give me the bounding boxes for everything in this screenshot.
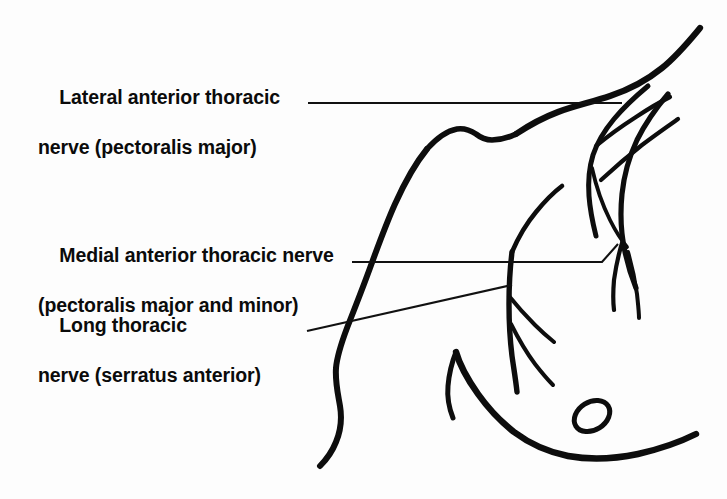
long-thoracic-nerve — [509, 252, 517, 392]
leader-line-long-thoracic — [307, 285, 512, 331]
leader-line-medial — [352, 244, 618, 262]
axillary-fold — [448, 352, 456, 418]
label-long-line1: Long thoracic — [59, 314, 187, 336]
medial-pectoral-fork-left — [613, 240, 623, 310]
breast-contour — [456, 352, 696, 458]
shoulder-arm-contour — [516, 28, 700, 134]
label-long-thoracic-nerve: Long thoracic nerve (serratus anterior) — [38, 288, 261, 438]
label-medial-line1: Medial anterior thoracic nerve — [59, 244, 333, 266]
label-long-line2: nerve (serratus anterior) — [38, 363, 261, 388]
lateral-pectoral-nerve — [589, 86, 648, 236]
nipple-areola — [568, 394, 615, 438]
label-lateral-line2: nerve (pectoralis major) — [38, 135, 280, 160]
anatomical-diagram: Lateral anterior thoracic nerve (pectora… — [0, 0, 727, 499]
label-lateral-anterior-thoracic-nerve: Lateral anterior thoracic nerve (pectora… — [38, 60, 280, 210]
clavicle-ridge — [427, 129, 516, 149]
long-thoracic-upper-segment — [512, 186, 562, 252]
label-lateral-line1: Lateral anterior thoracic — [59, 86, 280, 108]
lateral-pectoral-branch-lower — [601, 119, 678, 180]
